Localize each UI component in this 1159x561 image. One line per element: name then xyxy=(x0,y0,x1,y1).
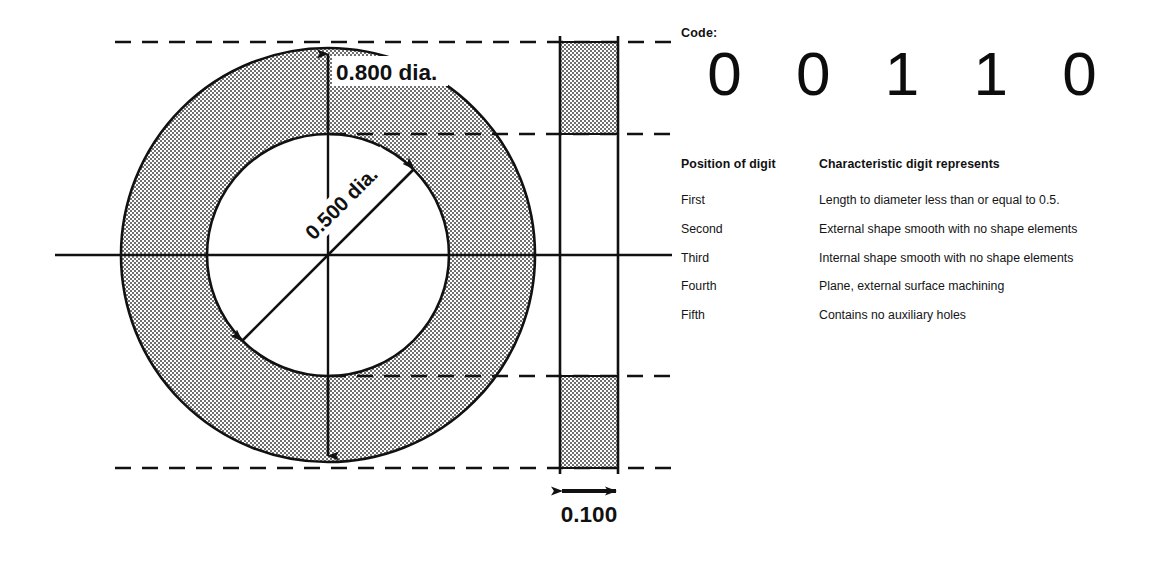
outer-diameter-label: 0.800 dia. xyxy=(336,60,437,85)
table-row: Fifth Contains no auxiliary holes xyxy=(681,308,1111,324)
table-cell-position: Second xyxy=(681,222,819,238)
code-digit-2: 0 xyxy=(769,42,858,105)
side-view xyxy=(540,20,640,520)
code-information-panel: Code: 0 0 1 1 0 Position of digit Charac… xyxy=(678,26,1148,526)
annulus-shading xyxy=(100,20,600,520)
characteristics-table: Position of digit Characteristic digit r… xyxy=(681,157,1111,324)
drawing-canvas: 0.800 dia. 0.500 dia. 0.100 xyxy=(0,0,700,561)
table-cell-characteristic: Length to diameter less than or equal to… xyxy=(819,193,1087,209)
table-row: Fourth Plane, external surface machining xyxy=(681,279,1111,295)
table-cell-characteristic: Contains no auxiliary holes xyxy=(819,308,1087,324)
code-digit-4: 1 xyxy=(946,42,1035,105)
engineering-drawing: 0.800 dia. 0.500 dia. 0.100 xyxy=(0,0,700,561)
table-cell-characteristic: Plane, external surface machining xyxy=(819,279,1087,295)
code-digit-1: 0 xyxy=(680,42,769,105)
annulus-front-view xyxy=(100,20,600,520)
table-row: Third Internal shape smooth with no shap… xyxy=(681,251,1111,267)
table-header-position: Position of digit xyxy=(681,157,819,171)
table-row: Second External shape smooth with no sha… xyxy=(681,222,1111,238)
table-cell-position: First xyxy=(681,193,819,209)
table-header-row: Position of digit Characteristic digit r… xyxy=(681,157,1111,171)
code-label: Code: xyxy=(681,26,1148,40)
figure-page: 0.800 dia. 0.500 dia. 0.100 Code: 0 0 1 xyxy=(0,0,1159,561)
table-cell-characteristic: External shape smooth with no shape elem… xyxy=(819,222,1087,238)
code-digit-3: 1 xyxy=(858,42,947,105)
code-digit-5: 0 xyxy=(1035,42,1124,105)
table-cell-characteristic: Internal shape smooth with no shape elem… xyxy=(819,251,1087,267)
code-digit-row: 0 0 1 1 0 xyxy=(680,42,1124,105)
thickness-label: 0.100 xyxy=(561,502,617,527)
table-cell-position: Fourth xyxy=(681,279,819,295)
table-cell-position: Third xyxy=(681,251,819,267)
table-cell-position: Fifth xyxy=(681,308,819,324)
table-header-characteristic: Characteristic digit represents xyxy=(819,157,1111,171)
side-view-shading xyxy=(540,20,640,520)
table-row: First Length to diameter less than or eq… xyxy=(681,193,1111,209)
